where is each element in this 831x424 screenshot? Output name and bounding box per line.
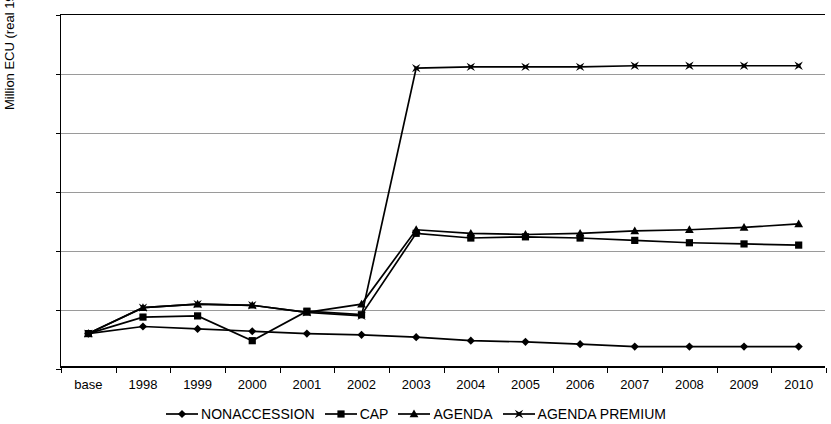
series-agenda-premium [84, 62, 803, 338]
x-tick-label: 2003 [402, 377, 431, 392]
data-point-marker [467, 337, 475, 345]
line-chart: Million ECU (real 1996) -100-50050100150… [0, 0, 831, 424]
legend-swatch [502, 407, 536, 421]
x-tick-label: 1999 [183, 377, 212, 392]
series-agenda [84, 219, 803, 336]
chart-legend: NONACCESSIONCAPAGENDAAGENDA PREMIUM [0, 406, 831, 422]
legend-item-nonaccession[interactable]: NONACCESSION [165, 406, 315, 422]
legend-marker-square-icon [324, 407, 358, 421]
x-tick-mark [826, 368, 827, 373]
legend-label: AGENDA [433, 406, 492, 422]
data-point-marker [357, 331, 365, 339]
series-line [88, 66, 798, 334]
legend-label: CAP [360, 406, 389, 422]
data-point-marker [178, 410, 186, 418]
data-point-marker [576, 340, 584, 348]
legend-item-agenda[interactable]: AGENDA [397, 406, 492, 422]
legend-item-cap[interactable]: CAP [324, 406, 389, 422]
x-tick-label: base [74, 377, 102, 392]
data-point-marker [685, 342, 693, 350]
series-layer [61, 15, 826, 369]
data-point-marker [631, 342, 639, 350]
data-point-marker [194, 312, 201, 319]
x-tick-label: 2006 [566, 377, 595, 392]
series-nonaccession [84, 322, 803, 350]
legend-marker-star-icon [502, 407, 536, 421]
legend-swatch [397, 407, 431, 421]
data-point-marker [795, 242, 802, 249]
legend-label: AGENDA PREMIUM [538, 406, 666, 422]
x-tick-label: 2004 [456, 377, 485, 392]
data-point-marker [686, 239, 693, 246]
data-point-marker [337, 410, 344, 417]
data-point-marker [139, 313, 146, 320]
x-tick-label: 1998 [128, 377, 157, 392]
y-axis-title: Million ECU (real 1996) [2, 0, 17, 110]
plot-inner: -100-50050100150200 base1998199920002001… [61, 15, 825, 368]
legend-swatch [324, 407, 358, 421]
data-point-marker [631, 237, 638, 244]
series-line [88, 233, 798, 340]
data-point-marker [248, 327, 256, 335]
x-tick-label: 2001 [292, 377, 321, 392]
data-point-marker [249, 337, 256, 344]
data-point-marker [740, 240, 747, 247]
x-tick-label: 2008 [675, 377, 704, 392]
data-point-marker [139, 322, 147, 330]
x-tick-label: 2010 [784, 377, 813, 392]
data-point-marker [412, 333, 420, 341]
x-tick-label: 2005 [511, 377, 540, 392]
legend-label: NONACCESSION [201, 406, 315, 422]
legend-marker-triangle-icon [397, 407, 431, 421]
data-point-marker [194, 325, 202, 333]
x-tick-label: 2002 [347, 377, 376, 392]
legend-marker-diamond-icon [165, 407, 199, 421]
x-axis-line [61, 366, 825, 368]
data-point-marker [521, 338, 529, 346]
legend-item-agenda-premium[interactable]: AGENDA PREMIUM [502, 406, 666, 422]
x-tick-label: 2009 [730, 377, 759, 392]
data-point-marker [795, 342, 803, 350]
series-cap [85, 230, 803, 345]
x-tick-label: 2007 [620, 377, 649, 392]
x-tick-label: 2000 [238, 377, 267, 392]
plot-area: -100-50050100150200 base1998199920002001… [60, 14, 825, 368]
legend-swatch [165, 407, 199, 421]
data-point-marker [303, 330, 311, 338]
data-point-marker [740, 342, 748, 350]
